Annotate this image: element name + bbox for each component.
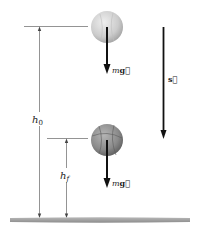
- force-bottom-g-label: g⃗: [120, 178, 131, 188]
- free-fall-diagram: h0 hf mg⃗ mg⃗ s⃗: [0, 0, 201, 233]
- force-top-g-label: g⃗: [120, 65, 131, 75]
- displacement-label: s⃗: [168, 74, 178, 84]
- ground: [10, 217, 190, 223]
- svg-text:mg⃗: mg⃗: [112, 65, 130, 75]
- h0-subscript: 0: [38, 119, 42, 127]
- svg-text:mg⃗: mg⃗: [112, 178, 130, 188]
- displacement-arrow: [161, 27, 167, 139]
